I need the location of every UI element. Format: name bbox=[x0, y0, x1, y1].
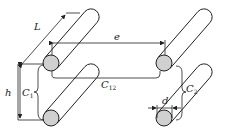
label-e: e bbox=[114, 32, 120, 42]
label-h: h bbox=[5, 88, 11, 98]
cylinder-bottom-left bbox=[43, 64, 99, 126]
cylinder-top-right bbox=[156, 9, 212, 71]
label-d: d bbox=[162, 96, 168, 106]
label-L: L bbox=[34, 22, 41, 32]
brace-C1 bbox=[34, 65, 44, 120]
cylinder-top-left bbox=[43, 9, 99, 71]
label-C12: C12 bbox=[101, 80, 116, 91]
conductor-diagram: L e h C1 C12 C2 d bbox=[0, 0, 232, 135]
label-C1: C1 bbox=[22, 88, 33, 99]
label-C2: C2 bbox=[186, 84, 197, 95]
bracket-C12 bbox=[52, 71, 160, 78]
